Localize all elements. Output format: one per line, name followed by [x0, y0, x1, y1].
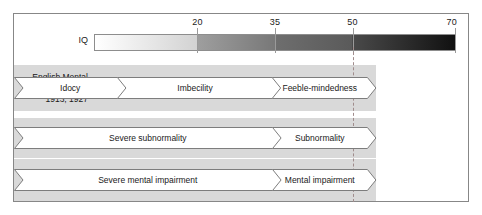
category-chevron: Imbecility — [108, 77, 281, 99]
category-chevron: Severe subnormality — [14, 127, 282, 149]
category-label: Severe mental impairment — [98, 175, 197, 185]
iq-tick-label: 35 — [270, 17, 280, 27]
iq-axis-label: IQ — [14, 35, 88, 45]
classification-row: English MHA1983Severe mental impairmentM… — [14, 159, 470, 201]
gradient-segment — [352, 35, 455, 50]
category-label: Feeble-mindedness — [282, 83, 357, 93]
iq-tick-mark — [455, 28, 456, 53]
iq-tick-mark — [197, 28, 198, 53]
row-chevrons: Severe mental impairmentMental impairmen… — [14, 169, 376, 191]
iq-tick-mark — [275, 28, 276, 53]
iq-tick-label: 50 — [347, 17, 357, 27]
category-label: Subnormality — [295, 133, 345, 143]
diagram-frame: IQ 20355070 English MentalDeficiency Act… — [13, 13, 469, 202]
iq-scale-row: IQ 20355070 — [14, 14, 470, 60]
gradient-segment — [95, 35, 198, 50]
gradient-segment — [198, 35, 275, 50]
gradient-segment — [275, 35, 352, 50]
iq-tick-label: 70 — [447, 17, 457, 27]
iq-tick-label: 20 — [192, 17, 202, 27]
category-chevron: Severe mental impairment — [14, 169, 282, 191]
category-label: Idocy — [60, 83, 80, 93]
category-label: Severe subnormality — [109, 133, 186, 143]
category-label: Imbecility — [177, 83, 212, 93]
category-label: Mental impairment — [285, 175, 355, 185]
row-chevrons: Severe subnormalitySubnormality — [14, 127, 376, 149]
classification-row: English MentalDeficiency Acts1913, 1927I… — [14, 65, 470, 111]
row-chevrons: IdocyImbecilityFeeble-mindedness — [14, 77, 376, 99]
classification-row: English MHA1959Severe subnormalitySubnor… — [14, 118, 470, 158]
category-chevron: Idocy — [14, 77, 126, 99]
